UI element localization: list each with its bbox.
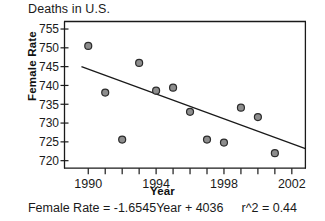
data-point (271, 150, 278, 157)
y-tick-label: 735 (39, 98, 59, 112)
y-tick-label: 745 (39, 60, 59, 74)
data-point (85, 42, 92, 49)
y-tick-label: 740 (39, 79, 59, 93)
y-tick-label: 720 (39, 154, 59, 168)
data-point (170, 84, 177, 91)
data-point (220, 139, 227, 146)
data-point (187, 108, 194, 115)
x-axis-label: Year (0, 185, 325, 197)
equation-row: Female Rate = -1.6545Year + 4036 r^2 = 0… (0, 201, 325, 215)
y-axis-label: Female Rate (26, 17, 38, 115)
regression-equation: Female Rate = -1.6545Year + 4036 (28, 201, 224, 215)
y-tick-label: 730 (39, 116, 59, 130)
r-squared-value: r^2 = 0.44 (241, 201, 297, 215)
data-point (254, 114, 261, 121)
y-tick-label: 755 (39, 22, 59, 36)
data-point (136, 59, 143, 66)
chart-container: Deaths in U.S. 720725730735740745750755 … (0, 0, 325, 221)
data-point (204, 136, 211, 143)
y-tick-label: 725 (39, 135, 59, 149)
data-point (102, 89, 109, 96)
data-point (119, 136, 126, 143)
axis-frame (64, 22, 306, 169)
data-point (237, 104, 244, 111)
y-tick-label: 750 (39, 41, 59, 55)
data-point (153, 87, 160, 94)
regression-line (81, 67, 305, 149)
trendline-segment (81, 67, 305, 149)
data-points (85, 42, 279, 156)
